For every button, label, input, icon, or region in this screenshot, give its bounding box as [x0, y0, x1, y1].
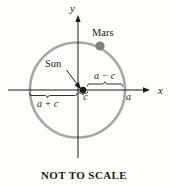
sun-pointer-arrow — [67, 70, 78, 84]
brace-a-minus-c — [88, 82, 123, 87]
x-axis-label: x — [157, 84, 163, 96]
mars-label: Mars — [92, 27, 114, 38]
mars-dot — [95, 41, 104, 50]
label-a: a — [126, 91, 131, 102]
orbit-diagram-canvas: x y Mars Sun a − c a + c c a NOT TO SCAL… — [0, 0, 174, 186]
sun-label: Sun — [45, 58, 62, 69]
label-a-minus-c: a − c — [94, 70, 116, 81]
y-axis-label: y — [69, 2, 75, 14]
orbit-diagram: x y Mars Sun a − c a + c c a NOT TO SCAL… — [0, 0, 174, 186]
label-c: c — [83, 91, 88, 102]
not-to-scale-caption: NOT TO SCALE — [41, 169, 127, 181]
label-a-plus-c: a + c — [37, 98, 59, 109]
